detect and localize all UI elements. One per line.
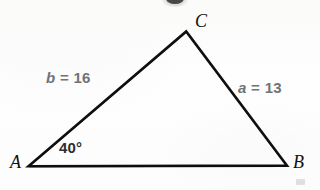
side-b-equals: = [55,69,73,86]
angle-label-a: 40° [59,140,82,155]
side-a-value: 13 [265,79,282,96]
side-label-a: a = 13 [238,80,282,95]
figure-canvas: C A B b = 16 a = 13 40° [0,0,320,190]
vertex-label-a: A [10,153,21,171]
side-c-overstroke [30,166,287,167]
side-a-overstroke [187,33,287,165]
side-b-overstroke [30,33,186,166]
side-a-equals: = [247,79,265,96]
vertex-label-b: B [293,153,304,171]
vertex-label-c: C [195,12,207,30]
side-b-value: 16 [73,69,90,86]
side-label-b: b = 16 [46,70,91,85]
side-a-variable: a [238,79,247,96]
